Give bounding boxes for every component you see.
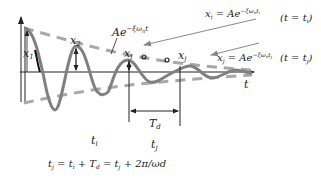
damped-oscillation-curve	[24, 28, 252, 110]
upper-envelope	[24, 28, 252, 70]
label-t-axis: t	[244, 78, 249, 91]
label-x2: x2	[70, 34, 81, 48]
xi-equation-arrow	[144, 19, 256, 45]
condition-ti: (t = ti)	[280, 12, 313, 24]
equation-xi: xi = Ae−ξωnti	[205, 7, 261, 20]
label-tj: tj	[151, 138, 158, 152]
label-xj: xj	[178, 49, 187, 63]
condition-tj: (t = tj)	[280, 52, 313, 65]
label-td: Td	[149, 117, 161, 131]
label-envelope: Ae−ξωnt	[111, 25, 148, 39]
period-equation: tj = ti + Td = tj + 2π/ωd	[48, 158, 166, 171]
label-xi: xi	[124, 47, 132, 61]
label-ti: ti	[91, 134, 98, 148]
label-x1: x1	[23, 47, 34, 61]
damped-vibration-diagram: x1 x2 xi xj Ae−ξωnt t Td ti tj xi = Ae−ξ…	[0, 0, 321, 181]
lower-envelope	[24, 75, 252, 103]
equation-xj: xj = Ae−ξωntj	[217, 51, 273, 65]
